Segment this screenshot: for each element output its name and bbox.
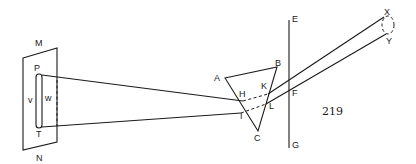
image-circle-xy — [382, 16, 394, 34]
page-number: 219 — [322, 105, 343, 118]
label-l: L — [269, 101, 274, 111]
label-i: I — [240, 111, 243, 121]
label-e: E — [292, 14, 298, 24]
label-f: F — [292, 88, 298, 98]
label-h: H — [239, 89, 246, 99]
emergent-rays — [266, 17, 386, 104]
label-b: B — [275, 58, 281, 68]
incident-rays — [42, 75, 243, 127]
label-t: T — [36, 129, 42, 139]
slot-pt — [36, 74, 42, 128]
label-g: G — [292, 140, 299, 150]
label-y: Y — [386, 36, 392, 46]
prism-diagram: M N P T v w A B C H K I L E F G X Y 219 — [0, 0, 416, 164]
label-v: v — [28, 95, 33, 105]
label-k: K — [261, 81, 267, 91]
label-c: C — [254, 133, 261, 143]
label-w: w — [44, 93, 52, 103]
label-p: P — [34, 63, 40, 73]
label-a: A — [214, 73, 220, 83]
label-n: N — [36, 153, 43, 163]
label-x: X — [384, 7, 390, 17]
label-m: M — [35, 38, 43, 48]
